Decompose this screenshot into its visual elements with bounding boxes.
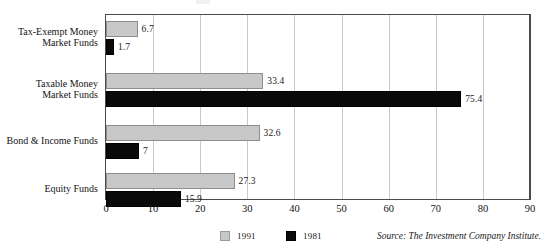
category-label: Tax-Exempt Money Market Funds [0, 26, 98, 49]
bar-1991 [106, 125, 260, 141]
x-tick-label-60: 60 [383, 202, 394, 216]
x-tick-label-40: 40 [289, 202, 300, 216]
x-tick-label-30: 30 [242, 202, 253, 216]
black-swatch-icon [286, 231, 296, 241]
bar-value-label: 75.4 [465, 91, 482, 107]
bar-value-label: 27.3 [239, 173, 256, 189]
legend-label: 1981 [303, 229, 322, 243]
bar-1991 [106, 173, 235, 189]
chart-bars-layer: 6.71.733.475.432.6727.315.9 [106, 15, 529, 199]
x-tick-label-50: 50 [336, 202, 347, 216]
bar-1981 [106, 39, 114, 55]
bar-value-label: 1.7 [118, 39, 130, 55]
category-label: Equity Funds [0, 183, 98, 195]
chart-plot-area: 6.71.733.475.432.6727.315.9 [105, 14, 531, 200]
bar-group: 6.71.7 [106, 21, 529, 57]
bar-group: 32.67 [106, 125, 529, 161]
bar-value-label: 7 [143, 143, 148, 159]
bar-value-label: 6.7 [142, 21, 154, 37]
gray-swatch-icon [220, 231, 230, 241]
bar-1981 [106, 143, 139, 159]
legend-item-1991[interactable]: 1991 [220, 229, 256, 243]
x-axis-tick-labels: 0102030405060708090 [0, 202, 547, 218]
bar-value-label: 33.4 [267, 73, 284, 89]
legend-label: 1991 [237, 229, 256, 243]
x-tick-label-10: 10 [148, 202, 159, 216]
x-tick-label-90: 90 [525, 202, 536, 216]
x-tick-label-20: 20 [195, 202, 206, 216]
category-label: Bond & Income Funds [0, 135, 98, 147]
x-tick-label-70: 70 [431, 202, 442, 216]
x-tick-label-80: 80 [478, 202, 489, 216]
bar-1991 [106, 21, 138, 37]
category-label: Taxable Money Market Funds [0, 78, 98, 101]
bar-group: 33.475.4 [106, 73, 529, 109]
bar-1991 [106, 73, 263, 89]
y-axis-category-labels: Tax-Exempt Money Market FundsTaxable Mon… [0, 14, 101, 200]
bar-value-label: 32.6 [264, 125, 281, 141]
page-scan-artifact [196, 0, 210, 4]
source-note: Source: The Investment Company Institute… [377, 229, 541, 243]
bar-1981 [106, 91, 461, 107]
x-tick-label-0: 0 [103, 202, 108, 216]
legend-item-1981[interactable]: 1981 [286, 229, 322, 243]
chart-legend: Source: The Investment Company Institute… [0, 229, 547, 245]
